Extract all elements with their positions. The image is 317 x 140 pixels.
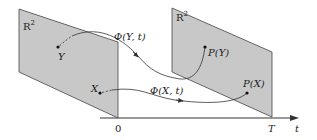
point-y	[56, 45, 59, 48]
axis-arrow-icon	[290, 115, 299, 121]
point-px	[245, 91, 248, 94]
axis-label-var: t	[295, 123, 300, 134]
diagram-canvas: R2 R2 Y X P(Y) P(X) Φ(Y, t) Φ(X, t) 0 T …	[0, 0, 317, 140]
label-x: X	[90, 83, 99, 94]
label-py: P(Y)	[207, 47, 229, 58]
point-x	[98, 91, 101, 94]
label-phi-y: Φ(Y, t)	[114, 31, 146, 42]
label-px: P(X)	[242, 78, 265, 89]
flow-arrow-icon	[133, 52, 138, 57]
axis-label-start: 0	[115, 123, 121, 134]
label-phi-x: Φ(X, t)	[150, 85, 184, 96]
axis-label-end: T	[268, 123, 276, 134]
right-plane	[172, 8, 272, 117]
point-py	[203, 45, 206, 48]
flow-arrow-icon	[176, 100, 183, 101]
